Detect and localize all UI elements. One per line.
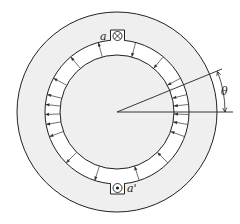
coil-a-prime-label: a' — [127, 182, 137, 195]
top-slot-gap-cover — [111, 38, 124, 44]
bottom-slot-gap-cover — [111, 180, 124, 186]
coil-a-label: a — [100, 30, 107, 43]
theta-label: θ — [221, 85, 228, 98]
machine-cross-section-diagram: a a' θ — [0, 0, 240, 224]
